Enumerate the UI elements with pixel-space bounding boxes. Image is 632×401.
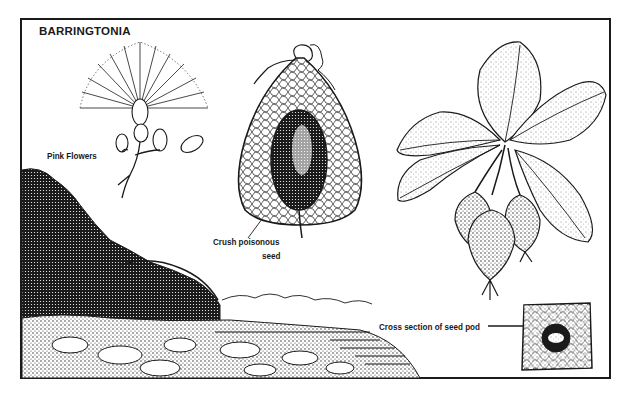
label-pink-flowers: Pink Flowers: [47, 150, 97, 161]
label-crush-seed-line1: Crush poisonous: [213, 236, 279, 247]
flower-cluster-illustration: [80, 42, 208, 198]
leaf-and-fruit-branch-illustration: [397, 42, 606, 300]
illustration-canvas: [0, 0, 632, 401]
coastal-landscape-illustration: [22, 169, 420, 378]
label-crush-seed-line2: seed: [262, 250, 280, 261]
seed-pod-cross-section-illustration: [488, 303, 592, 370]
seed-pod-cutaway-illustration: [239, 45, 362, 238]
label-cross-section: Cross section of seed pod: [379, 321, 480, 332]
figure-title: BARRINGTONIA: [39, 25, 131, 37]
